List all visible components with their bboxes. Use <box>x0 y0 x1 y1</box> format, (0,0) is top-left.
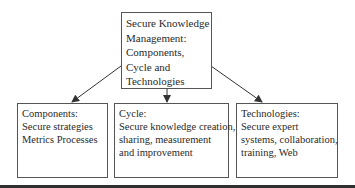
root-line: Cycle and <box>126 60 207 75</box>
bottom-divider <box>0 185 355 188</box>
node-line: sharing, measurement <box>119 133 224 146</box>
root-line: Secure Knowledge <box>126 16 207 31</box>
node-line: training, Web <box>241 146 333 159</box>
node-title: Technologies: <box>241 107 333 120</box>
node-cycle: Cycle: Secure knowledge creation, sharin… <box>114 103 229 178</box>
node-line: Secure strategies <box>22 120 103 133</box>
node-title: Components: <box>22 107 103 120</box>
node-line: systems, collaboration, <box>241 133 333 146</box>
root-line: Management: <box>126 31 207 46</box>
arrow-to-components <box>72 66 121 102</box>
root-node-secure-knowledge-management: Secure Knowledge Management: Components,… <box>121 12 212 89</box>
arrow-to-technologies <box>211 66 262 102</box>
node-title: Cycle: <box>119 107 224 120</box>
node-line: and improvement <box>119 146 224 159</box>
root-line: Technologies <box>126 74 207 89</box>
node-components: Components: Secure strategies Metrics Pr… <box>17 103 108 178</box>
node-line: Secure knowledge creation, <box>119 120 224 133</box>
node-line: Secure expert <box>241 120 333 133</box>
node-technologies: Technologies: Secure expert systems, col… <box>236 103 338 178</box>
node-line: Metrics Processes <box>22 133 103 146</box>
root-line: Components, <box>126 45 207 60</box>
